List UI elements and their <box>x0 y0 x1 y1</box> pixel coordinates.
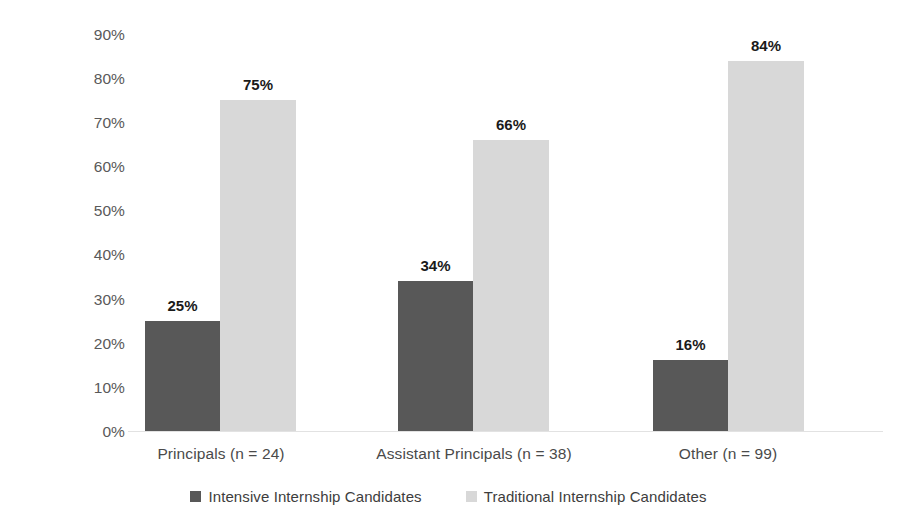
legend-swatch-icon-traditional <box>466 491 477 502</box>
bar-traditional-principals[interactable] <box>220 100 296 431</box>
bars-layer <box>0 0 897 431</box>
legend-item-traditional[interactable]: Traditional Internship Candidates <box>466 489 707 504</box>
bar-traditional-other[interactable] <box>728 61 804 431</box>
bar-intensive-other[interactable] <box>653 360 728 431</box>
category-label-other: Other (n = 99) <box>597 446 859 462</box>
bar-traditional-assistant-principals[interactable] <box>473 140 549 431</box>
legend-label-intensive: Intensive Internship Candidates <box>208 489 421 504</box>
legend-item-intensive[interactable]: Intensive Internship Candidates <box>190 489 421 504</box>
bar-chart: 90% 80% 70% 60% 50% 40% 30% 20% 10% 0% <box>0 0 897 514</box>
bar-intensive-principals[interactable] <box>145 321 220 431</box>
x-axis-category-labels: Principals (n = 24) Assistant Principals… <box>0 446 897 472</box>
legend-label-traditional: Traditional Internship Candidates <box>484 489 707 504</box>
bar-value-traditional-assistant-principals: 66% <box>473 117 549 132</box>
chart-legend: Intensive Internship Candidates Traditio… <box>0 484 897 508</box>
category-label-principals: Principals (n = 24) <box>90 446 352 462</box>
bar-value-intensive-other: 16% <box>653 337 728 352</box>
category-label-assistant-principals: Assistant Principals (n = 38) <box>343 446 605 462</box>
bar-intensive-assistant-principals[interactable] <box>398 281 473 431</box>
legend-swatch-icon-intensive <box>190 491 201 502</box>
bar-value-traditional-other: 84% <box>728 38 804 53</box>
plot-area: 90% 80% 70% 60% 50% 40% 30% 20% 10% 0% <box>0 0 897 460</box>
bar-value-intensive-assistant-principals: 34% <box>398 258 473 273</box>
bar-value-traditional-principals: 75% <box>220 77 296 92</box>
x-axis-baseline <box>128 431 883 432</box>
bar-value-intensive-principals: 25% <box>145 298 220 313</box>
